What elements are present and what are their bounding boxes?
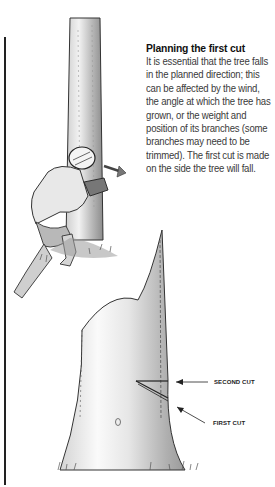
caption-body: It is essential that the tree falls in t… [146,55,275,176]
first-cut-label: FIRST CUT [213,420,245,426]
caption-title: Planning the first cut [146,42,263,55]
tree-with-person-illustration [14,18,126,298]
tree-trunk-cut-illustration [58,230,208,470]
second-cut-label: SECOND CUT [214,379,255,385]
document-page: SECOND CUT FIRST CUT Planning the first … [0,0,275,487]
caption-block: Planning the first cut It is essential t… [146,42,275,176]
